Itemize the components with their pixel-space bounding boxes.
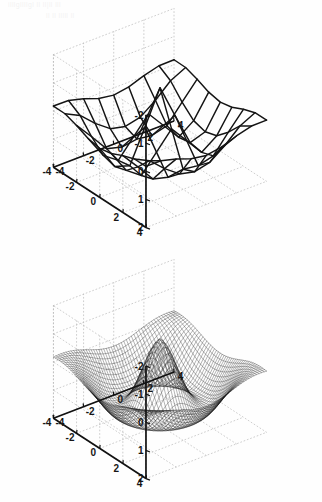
x-tick-label: -2 xyxy=(86,406,95,417)
mesh-line-u xyxy=(151,321,244,399)
x-tick-label: 4 xyxy=(178,371,184,382)
z-tick-label: -2 xyxy=(135,110,144,121)
plot-area-coarse: 210-1-2420-2-4-4-2024 xyxy=(0,0,322,251)
plot-area-fine: 210-1-2420-2-4-4-2024 xyxy=(0,251,322,502)
z-tick-label: -2 xyxy=(135,361,144,372)
mesh-line-v xyxy=(146,371,267,417)
z-tick-label: 1 xyxy=(138,194,144,205)
z-tick-label: -1 xyxy=(135,138,144,149)
y-tick-label: 2 xyxy=(114,463,120,474)
x-tick-label: 0 xyxy=(117,394,123,405)
z-tick-label: 0 xyxy=(138,417,144,428)
y-tick-label: -4 xyxy=(42,417,51,428)
floor-grid-x xyxy=(114,395,207,455)
y-tick-label: 0 xyxy=(90,196,96,207)
mesh-line-v xyxy=(109,358,230,427)
mesh-line-u xyxy=(174,311,267,371)
y-tick-label: -2 xyxy=(66,181,75,192)
x-tick-label: 2 xyxy=(148,132,154,143)
fine-mesh-svg: 210-1-2420-2-4-4-2024 xyxy=(0,251,322,502)
y-tick-label: 4 xyxy=(137,227,143,238)
y-tick-label: 2 xyxy=(114,212,120,223)
y-tick-label: 4 xyxy=(137,478,143,489)
z-tick-label: 0 xyxy=(138,166,144,177)
z-tick-label: -1 xyxy=(135,389,144,400)
z-tick-mark xyxy=(146,479,150,481)
z-tick-mark xyxy=(146,228,150,230)
mesh-line-v xyxy=(140,367,261,417)
z-tick-label: 1 xyxy=(138,445,144,456)
x-tick-label: 2 xyxy=(148,383,154,394)
figure-fine-mesh: 210-1-2420-2-4-4-2024 xyxy=(0,251,322,502)
mesh-line-u xyxy=(166,313,259,373)
y-tick-label: -4 xyxy=(42,166,51,177)
x-tick-label: -2 xyxy=(86,155,95,166)
x-tick-label: 4 xyxy=(178,120,184,131)
scanned-page: illlgllllgl ll ll|ll lll ll ll lllll ll … xyxy=(0,0,322,502)
y-tick-label: -2 xyxy=(66,432,75,443)
x-tick-label: -4 xyxy=(55,417,64,428)
figure-coarse-mesh: 210-1-2420-2-4-4-2024 xyxy=(0,0,322,251)
x-tick-label: -4 xyxy=(55,166,64,177)
x-tick-label: 0 xyxy=(117,143,123,154)
mesh-line-u xyxy=(53,106,146,166)
mesh-line-u xyxy=(159,66,252,136)
y-tick-label: 0 xyxy=(90,447,96,458)
coarse-mesh-svg: 210-1-2420-2-4-4-2024 xyxy=(0,0,322,251)
wall-right-horiz xyxy=(53,37,174,83)
